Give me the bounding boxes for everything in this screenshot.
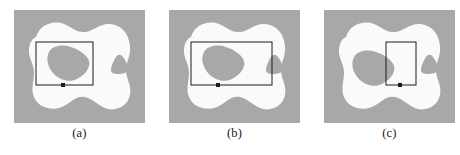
panel-a — [14, 10, 145, 123]
panel-b — [169, 10, 300, 123]
caption-b: (b) — [169, 126, 300, 141]
anchor-marker[interactable] — [398, 83, 402, 87]
anchor-marker[interactable] — [61, 83, 65, 87]
panel-c-graphic — [324, 10, 455, 123]
caption-c: (c) — [324, 126, 455, 141]
panel-c — [324, 10, 455, 123]
panel-a-graphic — [14, 10, 145, 123]
anchor-marker[interactable] — [216, 83, 220, 87]
figure-container: (a) (b) (c) — [0, 0, 460, 155]
caption-a: (a) — [14, 126, 145, 141]
panel-b-graphic — [169, 10, 300, 123]
